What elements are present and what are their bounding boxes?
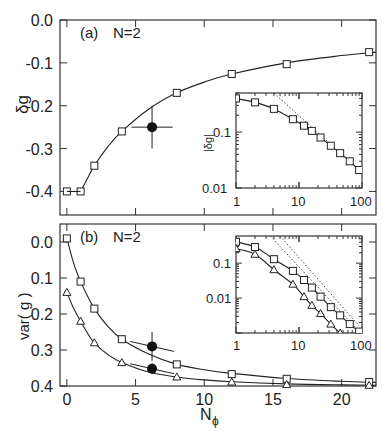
filled-data-point: [147, 341, 157, 351]
square-marker: [300, 122, 307, 129]
square-marker: [228, 71, 235, 78]
x-tick-label: 5: [131, 391, 140, 408]
square-marker: [337, 150, 344, 157]
square-marker: [63, 235, 70, 242]
y-tick-label: -0.2: [25, 98, 53, 115]
y-tick-label: 0.0: [31, 12, 53, 29]
y-tick-label: -0.1: [25, 55, 53, 72]
panel-a: δg 0.0-0.1-0.2-0.3-0.4 (a) N=2 |δg| 0.1 …: [13, 12, 376, 215]
square-marker: [356, 166, 363, 173]
panel-a-inset-ytick-0: 0.1: [213, 125, 231, 140]
square-marker: [346, 158, 353, 165]
y-tick-label: -0.3: [25, 141, 53, 158]
square-marker: [270, 256, 277, 263]
y-tick-label: 0.4: [31, 378, 53, 395]
square-marker: [366, 49, 373, 56]
triangle-marker: [251, 250, 259, 257]
square-marker: [300, 276, 307, 283]
square-marker: [346, 321, 353, 328]
panel-b-inset-ytick-0: 0.1: [213, 256, 231, 271]
x-tick-label: 20: [333, 391, 351, 408]
figure: δg 0.0-0.1-0.2-0.3-0.4 (a) N=2 |δg| 0.1 …: [0, 0, 389, 435]
panel-b-inset-ytick-1: 0.01: [206, 291, 231, 306]
panel-a-inset-xtick-0: 1: [233, 194, 240, 209]
square-marker: [228, 371, 235, 378]
x-tick-label: 0: [62, 391, 71, 408]
y-tick-label: 0.2: [31, 306, 53, 323]
square-marker: [173, 361, 180, 368]
square-marker: [91, 162, 98, 169]
triangle-marker: [63, 288, 71, 295]
square-marker: [317, 134, 324, 141]
panel-b-ylabel: var( g ): [15, 292, 32, 340]
x-axis-label-subscript: ϕ: [212, 414, 219, 428]
panel-a-inset-xtick-2: 100: [350, 194, 372, 209]
panel-a-inset-data: [233, 93, 363, 173]
triangle-marker: [118, 359, 126, 366]
x-axis-label: N: [200, 406, 212, 423]
square-marker: [356, 328, 363, 335]
square-marker: [251, 99, 258, 106]
panel-b-inset-data: [232, 236, 363, 344]
y-tick-label: -0.4: [25, 183, 53, 200]
panel-b-annotation: N=2: [113, 228, 141, 245]
panel-b: var( g ) 0.40.30.20.10.0 05101520 (b) N=…: [15, 224, 376, 428]
y-tick-label: 0.1: [31, 270, 53, 287]
panel-a-inset-ytick-1: 0.01: [202, 181, 227, 196]
panel-b-inset-xtick-1: 10: [291, 338, 305, 353]
square-marker: [327, 304, 334, 311]
fit-curve: [236, 98, 359, 170]
panel-b-inset-xtick-0: 1: [233, 338, 240, 353]
y-tick-label: 0.3: [31, 342, 53, 359]
square-marker: [173, 89, 180, 96]
square-marker: [308, 127, 315, 134]
panel-a-annotation: N=2: [113, 24, 141, 41]
panel-b-inset: 0.1 0.01 1 10 100: [206, 236, 372, 353]
panel-b-inset-xtick-2: 100: [350, 338, 372, 353]
x-tick-label: 15: [264, 391, 282, 408]
square-marker: [289, 267, 296, 274]
square-marker: [289, 116, 296, 123]
panel-a-label: (a): [80, 24, 98, 41]
y-tick-label: 0.0: [31, 234, 53, 251]
square-marker: [270, 105, 277, 112]
filled-data-point: [147, 364, 157, 374]
square-marker: [77, 278, 84, 285]
panel-a-inset-xtick-1: 10: [291, 194, 305, 209]
triangle-marker: [77, 317, 85, 324]
filled-data-point: [147, 122, 157, 132]
square-marker: [118, 128, 125, 135]
panel-a-data: [63, 49, 376, 195]
panel-a-inset-frame: [236, 93, 362, 188]
panel-a-inset: |δg| 0.1 0.01 1 10 100: [202, 93, 372, 209]
panel-a-yticklabels: 0.0-0.1-0.2-0.3-0.4: [25, 12, 53, 200]
panel-b-yticklabels: 0.40.30.20.10.0: [31, 234, 53, 395]
panel-a-inset-ticks: [236, 93, 362, 188]
square-marker: [91, 305, 98, 312]
panel-b-label: (b): [80, 228, 98, 245]
square-marker: [308, 284, 315, 291]
square-marker: [118, 336, 125, 343]
square-marker: [327, 142, 334, 149]
square-marker: [233, 95, 240, 102]
square-marker: [283, 61, 290, 68]
square-marker: [337, 312, 344, 319]
square-marker: [317, 293, 324, 300]
